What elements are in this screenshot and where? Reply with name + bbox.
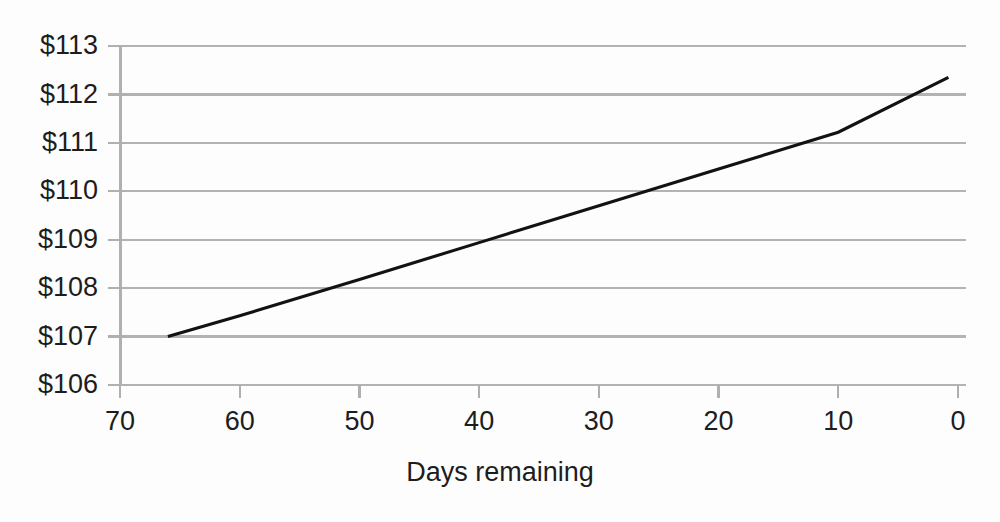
x-tick-label-40: 40 (464, 406, 494, 436)
y-tick-label-113: $113 (40, 30, 98, 60)
data-series (168, 77, 949, 336)
x-tick-label-70: 70 (105, 406, 135, 436)
x-tick-label-0: 0 (950, 406, 965, 436)
x-axis-title: Days remaining (406, 457, 594, 487)
tick-marks (108, 46, 958, 398)
y-tick-label-107: $107 (38, 321, 98, 351)
x-axis-tick-labels: 706050403020100 (105, 406, 966, 436)
x-tick-label-10: 10 (823, 406, 853, 436)
gridlines (120, 46, 966, 385)
y-tick-label-106: $106 (38, 369, 98, 399)
series-line-0 (168, 77, 949, 336)
chart-container: $106$107$108$109$110$111$112$113 7060504… (0, 0, 1000, 522)
y-tick-label-108: $108 (38, 272, 98, 302)
y-axis-tick-labels: $106$107$108$109$110$111$112$113 (38, 30, 98, 399)
y-tick-label-112: $112 (40, 79, 98, 109)
axis-lines (120, 46, 958, 398)
x-tick-label-20: 20 (704, 406, 734, 436)
x-tick-label-30: 30 (584, 406, 614, 436)
x-tick-label-60: 60 (225, 406, 255, 436)
y-tick-label-111: $111 (42, 127, 98, 157)
y-tick-label-110: $110 (40, 175, 98, 205)
x-tick-label-50: 50 (344, 406, 374, 436)
line-chart: $106$107$108$109$110$111$112$113 7060504… (0, 0, 1000, 522)
y-tick-label-109: $109 (38, 224, 98, 254)
